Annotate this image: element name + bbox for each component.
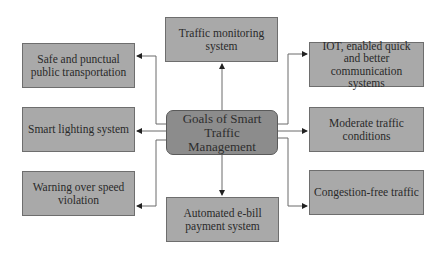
node-public-transportation: Safe and punctual public transportation (22, 43, 135, 88)
node-label: IOT, enabled quick and better communicat… (314, 40, 419, 90)
node-label: Safe and punctual public transportation (27, 53, 130, 78)
node-label: Traffic monitoring system (170, 27, 273, 52)
node-label: Moderate traffic conditions (314, 117, 419, 142)
node-label: Congestion-free traffic (314, 186, 419, 199)
node-smart-lighting: Smart lighting system (22, 107, 135, 152)
node-moderate-traffic: Moderate traffic conditions (309, 107, 424, 152)
node-congestion-free: Congestion-free traffic (309, 170, 424, 215)
node-label: Smart lighting system (28, 123, 129, 136)
node-speed-warning: Warning over speed violation (22, 171, 135, 216)
node-label: Automated e-bill payment system (171, 207, 274, 232)
node-iot-communication: IOT, enabled quick and better communicat… (309, 42, 424, 87)
node-label: Warning over speed violation (27, 181, 130, 206)
node-central-goal: Goals of Smart Traffic Management (166, 110, 278, 155)
node-e-bill-payment: Automated e-bill payment system (166, 197, 279, 242)
node-traffic-monitoring: Traffic monitoring system (165, 17, 278, 62)
center-label: Goals of Smart Traffic Management (171, 112, 273, 154)
